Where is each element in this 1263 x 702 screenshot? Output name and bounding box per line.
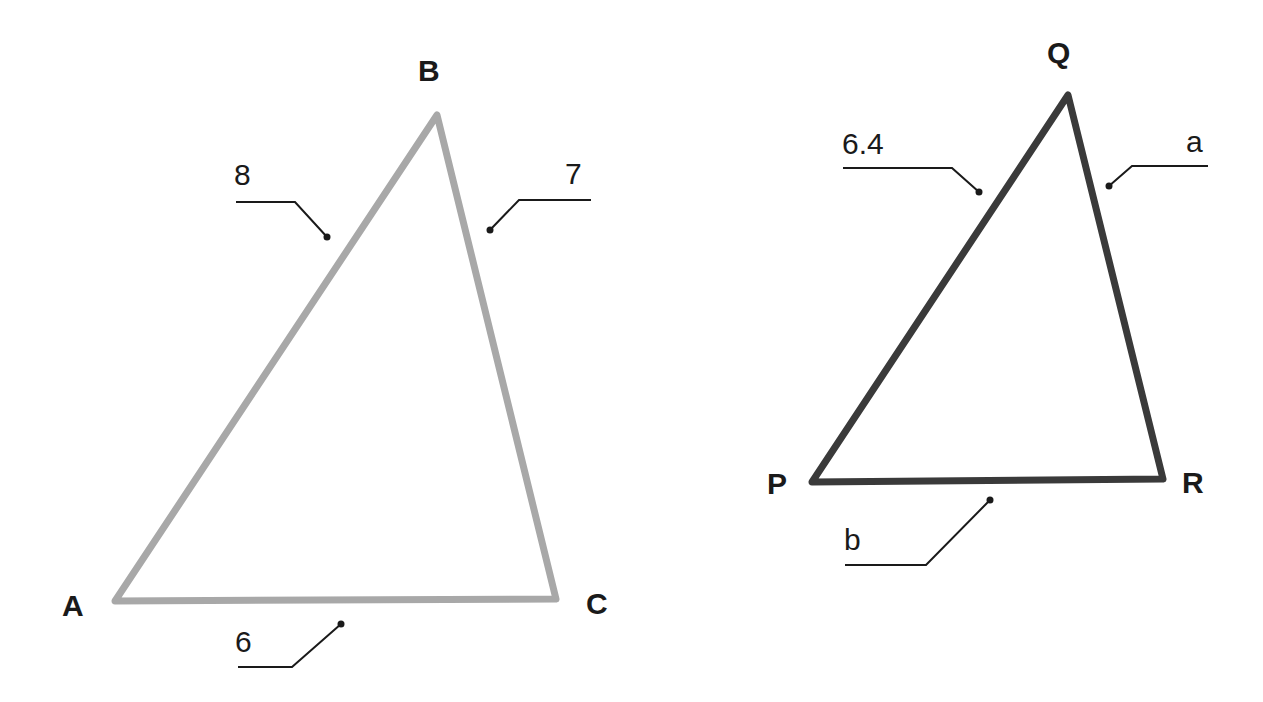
- side-pr-label: b: [844, 523, 861, 556]
- side-ab-leader-dot: [324, 234, 331, 241]
- side-bc-label: 7: [565, 157, 582, 190]
- vertex-q-label: Q: [1047, 36, 1070, 69]
- side-pq-label: 6.4: [842, 127, 884, 160]
- triangle-pqr: P Q R 6.4 a b: [767, 36, 1208, 565]
- triangle-abc-outline: [115, 115, 556, 601]
- side-pq-leader-dot: [976, 189, 983, 196]
- side-qr-leader: [1109, 166, 1208, 186]
- side-ac-leader: [238, 624, 341, 667]
- side-ab-label: 8: [234, 158, 251, 191]
- side-pr-leader: [845, 500, 990, 565]
- vertex-p-label: P: [767, 467, 787, 500]
- side-ab-leader: [236, 202, 327, 237]
- side-ac-leader-dot: [338, 621, 345, 628]
- triangle-abc: A B C 8 7 6: [62, 54, 608, 667]
- side-bc-leader: [490, 200, 591, 230]
- vertex-b-label: B: [418, 54, 440, 87]
- side-pr-leader-dot: [987, 497, 994, 504]
- similar-triangles-diagram: A B C 8 7 6 P Q R 6.4 a b: [0, 0, 1263, 702]
- side-bc-leader-dot: [487, 227, 494, 234]
- side-qr-label: a: [1186, 125, 1203, 158]
- side-qr-leader-dot: [1106, 183, 1113, 190]
- side-ac-label: 6: [235, 625, 252, 658]
- vertex-r-label: R: [1182, 466, 1204, 499]
- vertex-a-label: A: [62, 589, 84, 622]
- side-pq-leader: [843, 168, 979, 192]
- vertex-c-label: C: [586, 587, 608, 620]
